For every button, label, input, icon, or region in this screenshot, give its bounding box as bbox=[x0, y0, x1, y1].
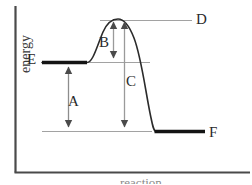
label-b: B bbox=[99, 35, 109, 50]
label-c: C bbox=[126, 74, 136, 89]
plot-area bbox=[0, 0, 252, 185]
label-f: F bbox=[209, 125, 217, 140]
label-a: A bbox=[68, 94, 79, 109]
label-d: D bbox=[196, 12, 207, 27]
x-axis-label: reaction bbox=[120, 176, 162, 184]
label-e: E bbox=[27, 52, 36, 67]
energy-profile-diagram: energy E D F bbox=[0, 0, 252, 185]
